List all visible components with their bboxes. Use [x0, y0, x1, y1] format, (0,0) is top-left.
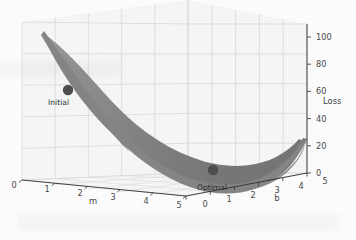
loss-tick-label-20: 20 — [316, 141, 326, 151]
b-tick-label-5: 5 — [322, 176, 327, 186]
loss-axis-tickmarks — [307, 37, 311, 173]
b-tick-label-4: 4 — [298, 181, 303, 191]
m-tick-label-4: 4 — [143, 196, 148, 206]
optimal-point-label: Optimal — [197, 183, 227, 192]
loss-tick-label-40: 40 — [316, 114, 326, 124]
loss-tick-label-60: 60 — [316, 86, 326, 96]
m-tick-label-1: 1 — [44, 184, 49, 194]
b-tick-label-1: 1 — [226, 194, 231, 204]
optimal-point-marker — [208, 165, 218, 175]
loss-axis-title: Loss — [323, 96, 341, 106]
loss-surface-figure: 0 1 2 3 4 5 m 0 1 2 3 4 5 b 0 20 40 60 8… — [0, 0, 356, 240]
loss-surface-plot: 0 1 2 3 4 5 m 0 1 2 3 4 5 b 0 20 40 60 8… — [0, 0, 356, 240]
m-tick-label-5: 5 — [176, 200, 181, 210]
initial-point-label: Initial — [48, 98, 69, 107]
initial-point-marker — [63, 85, 73, 95]
b-axis-title: b — [274, 193, 279, 203]
m-tick-label-2: 2 — [77, 188, 82, 198]
m-axis-title: m — [89, 196, 97, 206]
loss-tick-label-100: 100 — [316, 32, 332, 42]
b-tick-label-2: 2 — [250, 190, 255, 200]
m-tick-label-0: 0 — [11, 180, 16, 190]
loss-tick-label-0: 0 — [316, 168, 321, 178]
loss-tick-label-80: 80 — [316, 59, 326, 69]
m-tick-label-3: 3 — [110, 192, 115, 202]
pane-back-right — [188, 0, 307, 173]
b-tick-label-0: 0 — [202, 199, 207, 209]
